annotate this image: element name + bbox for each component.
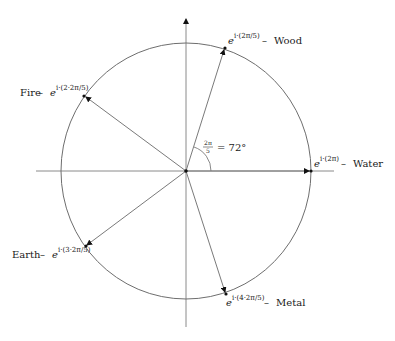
svg-text:Metal: Metal — [276, 297, 305, 308]
angle-label: 2π 5 = 72° — [203, 139, 246, 154]
svg-text:–: – — [341, 158, 346, 169]
svg-text:i·(2π/5): i·(2π/5) — [234, 32, 260, 40]
svg-text:i·(2π): i·(2π) — [320, 155, 339, 163]
point-wood — [223, 46, 226, 49]
svg-text:i·(4·2π/5): i·(4·2π/5) — [232, 294, 265, 302]
label-water: e i·(2π) – Water — [314, 155, 383, 169]
svg-text:2π: 2π — [204, 139, 212, 146]
svg-text:–: – — [262, 35, 267, 46]
label-fire: Fire – e i·(2·2π/5) — [20, 84, 89, 98]
vector-fire — [86, 97, 186, 171]
label-wood: e i·(2π/5) – Wood — [228, 32, 303, 46]
point-water — [309, 169, 312, 172]
label-metal: e i·(4·2π/5) – Metal — [226, 294, 305, 308]
svg-text:Water: Water — [353, 158, 383, 169]
svg-text:Earth: Earth — [12, 249, 41, 260]
point-fire — [82, 94, 85, 97]
point-metal — [224, 292, 227, 295]
unit-circle-diagram: 2π 5 = 72° e i·(2π/5) – Wood Fire – e i·… — [0, 0, 395, 341]
svg-text:Wood: Wood — [274, 35, 303, 46]
vector-earth — [87, 171, 186, 245]
svg-text:–: – — [40, 249, 45, 260]
svg-text:5: 5 — [206, 147, 210, 154]
vector-metal — [186, 171, 225, 292]
svg-text:–: – — [38, 87, 43, 98]
svg-text:= 72°: = 72° — [217, 142, 246, 153]
label-earth: Earth – e i·(3·2π/5) — [12, 246, 91, 260]
svg-text:–: – — [264, 297, 269, 308]
origin-dot — [184, 169, 188, 173]
svg-text:i·(2·2π/5): i·(2·2π/5) — [56, 84, 89, 92]
svg-text:i·(3·2π/5): i·(3·2π/5) — [58, 246, 91, 254]
